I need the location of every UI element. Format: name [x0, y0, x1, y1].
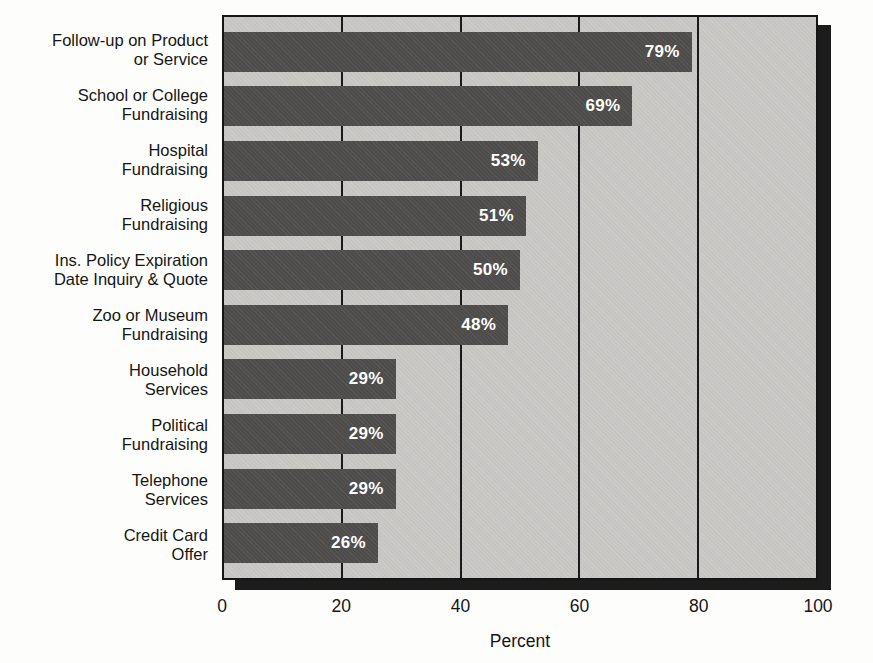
category-labels-column: Follow-up on Product or Service School o…	[0, 15, 208, 580]
x-tick-label: 60	[570, 596, 589, 617]
category-label-row: School or College Fundraising	[0, 85, 208, 125]
x-tick-label: 20	[331, 596, 350, 617]
category-label-row: Ins. Policy Expiration Date Inquiry & Qu…	[0, 250, 208, 290]
bars-group: 79% 69% 53% 51% 50% 48% 29% 29% 29% 26%	[224, 17, 816, 578]
category-label-row: Hospital Fundraising	[0, 140, 208, 180]
category-label-row: Religious Fundraising	[0, 195, 208, 235]
bar-telephone-services: 29%	[224, 469, 396, 509]
x-tick-label: 0	[217, 596, 227, 617]
plot-area: 79% 69% 53% 51% 50% 48% 29% 29% 29% 26%	[222, 15, 818, 580]
category-label: School or College Fundraising	[78, 86, 208, 125]
category-label: Household Services	[129, 361, 208, 400]
x-tick-label: 100	[803, 596, 832, 617]
bar-credit-card-offer: 26%	[224, 523, 378, 563]
bar-value-label: 53%	[491, 151, 526, 171]
category-label-row: Political Fundraising	[0, 415, 208, 455]
bar-chart-figure: Follow-up on Product or Service School o…	[0, 0, 873, 663]
bar-political-fundraising: 29%	[224, 414, 396, 454]
category-label: Ins. Policy Expiration Date Inquiry & Qu…	[54, 251, 208, 290]
category-label: Zoo or Museum Fundraising	[92, 306, 208, 345]
bar-zoo-museum-fundraising: 48%	[224, 305, 508, 345]
x-axis: 0 20 40 60 80 100	[222, 596, 818, 620]
bar-value-label: 29%	[349, 369, 384, 389]
bar-value-label: 29%	[349, 479, 384, 499]
category-label: Hospital Fundraising	[122, 141, 208, 180]
category-label-row: Follow-up on Product or Service	[0, 30, 208, 70]
bar-value-label: 26%	[331, 533, 366, 553]
category-label-row: Credit Card Offer	[0, 525, 208, 565]
bar-value-label: 79%	[645, 42, 680, 62]
bar-follow-up-product-service: 79%	[224, 32, 692, 72]
category-label-row: Household Services	[0, 360, 208, 400]
category-label: Follow-up on Product or Service	[52, 31, 208, 70]
bar-value-label: 50%	[473, 260, 508, 280]
category-label: Political Fundraising	[122, 416, 208, 455]
x-axis-title: Percent	[222, 631, 818, 652]
bar-school-college-fundraising: 69%	[224, 86, 632, 126]
bar-value-label: 51%	[479, 206, 514, 226]
bar-hospital-fundraising: 53%	[224, 141, 538, 181]
category-label: Religious Fundraising	[122, 196, 208, 235]
x-tick-label: 40	[451, 596, 470, 617]
bar-religious-fundraising: 51%	[224, 196, 526, 236]
bar-value-label: 69%	[586, 96, 621, 116]
category-label: Credit Card Offer	[124, 526, 208, 565]
x-tick-label: 80	[689, 596, 708, 617]
bar-ins-policy-expiration: 50%	[224, 250, 520, 290]
category-label-row: Telephone Services	[0, 470, 208, 510]
bar-household-services: 29%	[224, 359, 396, 399]
category-label-row: Zoo or Museum Fundraising	[0, 305, 208, 345]
bar-value-label: 29%	[349, 424, 384, 444]
category-label: Telephone Services	[132, 471, 208, 510]
bar-value-label: 48%	[461, 315, 496, 335]
